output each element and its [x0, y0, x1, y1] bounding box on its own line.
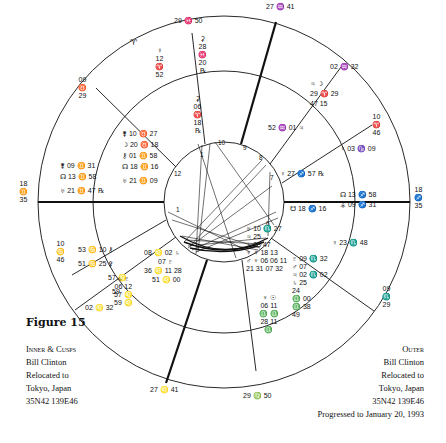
outer-venus2-right: ♀ 23 ♏ 48 — [332, 239, 368, 247]
cusp-asc: 18♐35 — [414, 186, 423, 210]
house-10: 10 — [218, 139, 226, 146]
outer-ceres: ⚳28♓20℞ — [198, 35, 207, 75]
cusp-dsc: 18♊35 — [19, 180, 28, 204]
outer-lower-right: ♇ 09 ♏ 32♂ 07♃ 02 ♏ 02♄ 2524♎ 00♎ 3849 — [292, 255, 328, 319]
svg-text:12: 12 — [174, 170, 182, 177]
cusp-9: 29 ♓ 50 — [174, 17, 202, 25]
inner-south-node: ☋ 18 ♐ 16 — [290, 205, 326, 213]
svg-text:1: 1 — [176, 206, 180, 213]
inner-right-lower: ♅ 10 ♏ 27♃ 25♄ 23 47♆ ☿ 18 13♂ ♆ 06 06 1… — [246, 225, 287, 273]
svg-text:8: 8 — [259, 154, 263, 161]
outer-moon-jupiter: ♃ ☽ — [310, 80, 323, 88]
cusp-12: 10♈46 — [372, 113, 381, 137]
inner-ceres: ⚳06♈18℞ — [193, 95, 202, 135]
inner-left-lower: 08 ♌ 02 ♄07 ♇36 ♌ 11 2851 ♌ 00 — [144, 248, 182, 284]
outer-vesta-right: ⚶ 09 ♐ 31 — [340, 201, 376, 209]
inner-saturn-pluto: ♄ ♇06 1257 ♌59 ♌ — [114, 275, 133, 307]
figure-title: Figure 15 — [26, 316, 86, 329]
outer-mars-min: 47 15 — [310, 100, 328, 108]
svg-text:7: 7 — [270, 174, 274, 181]
cusp-6: 10♋46 — [56, 240, 65, 264]
outer-bottom: ♆ ☉06 11♎ ♎28 11♎ — [259, 294, 279, 334]
inner-venus: ♀ 27 ♐ 57 ℞ — [280, 170, 324, 178]
svg-text:9: 9 — [243, 144, 247, 151]
house-11: 1 — [200, 151, 204, 158]
cusp-5: 02 ♌ 32 — [85, 304, 113, 312]
outer-mars: 29 ♈ 29 — [310, 90, 338, 98]
cusp-8: 09♉29 — [78, 76, 87, 100]
outer-left-upper: ⚵ 09 ♊ 31☊ 13 ♊ 58♅ 21 ♊ 47 ℞ — [60, 160, 104, 196]
inner-top-right: 52 ♒ 01 ♃ — [268, 124, 304, 132]
house-numbers: 1 10 9 8 7 6 12 1 — [174, 139, 274, 227]
cusp-mc: 27 ♒ 41 — [266, 3, 294, 11]
cusp-11: 02 ♒ 32 — [330, 63, 358, 71]
inner-top-left: ⚵ 10 ♉ 27☽ 20 ♉ 18⚷ 01 ♊ 58☊ 18 ♊ 16♅ 21… — [122, 128, 158, 186]
outer-mercury: ☿12♈52 — [155, 47, 164, 79]
cusp-ic: 27 ♌ 41 — [150, 386, 178, 394]
outer-aries-sign: ♈ — [130, 39, 137, 47]
cusp-3: 29 ♍ 50 — [243, 392, 271, 400]
cusp-2: 09♏29 — [382, 285, 391, 309]
outer-venus-right: ♀ 03 ♑ 09 — [340, 145, 376, 153]
outer-caption: Outer Bill Clinton Relocated to Tokyo, J… — [318, 343, 424, 421]
outer-node-right: ☊ 13 ♐ 58 — [340, 191, 376, 199]
inner-caption: Inner & Cusps Bill Clinton Relocated to … — [26, 343, 78, 408]
